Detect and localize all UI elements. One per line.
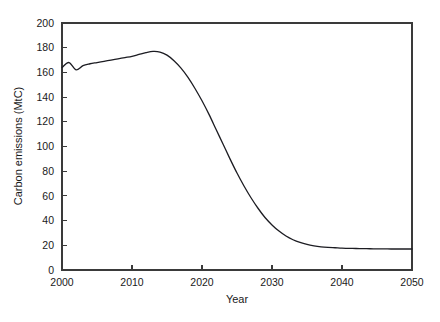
x-axis-tick-labels: 200020102020203020402050 [50, 276, 424, 288]
y-axis-tick-labels: 020406080100120140160180200 [36, 17, 54, 276]
x-tick-label: 2010 [120, 276, 144, 288]
x-tick-label: 2020 [190, 276, 214, 288]
x-tick-label: 2000 [50, 276, 74, 288]
y-tick-label: 40 [42, 214, 54, 226]
y-tick-label: 160 [36, 66, 54, 78]
x-tick-label: 2050 [400, 276, 424, 288]
y-tick-label: 80 [42, 165, 54, 177]
x-axis-title: Year [226, 293, 249, 305]
y-tick-label: 200 [36, 17, 54, 29]
y-tick-label: 20 [42, 239, 54, 251]
line-chart: 020406080100120140160180200 200020102020… [0, 0, 440, 322]
y-tick-label: 100 [36, 140, 54, 152]
chart-figure: 020406080100120140160180200 200020102020… [0, 0, 440, 322]
y-tick-label: 120 [36, 115, 54, 127]
y-tick-label: 60 [42, 190, 54, 202]
y-tick-label: 0 [48, 264, 54, 276]
y-tick-label: 180 [36, 41, 54, 53]
y-axis-title: Carbon emissions (MtC) [12, 87, 24, 206]
y-tick-label: 140 [36, 91, 54, 103]
x-tick-label: 2030 [260, 276, 284, 288]
x-tick-label: 2040 [330, 276, 354, 288]
